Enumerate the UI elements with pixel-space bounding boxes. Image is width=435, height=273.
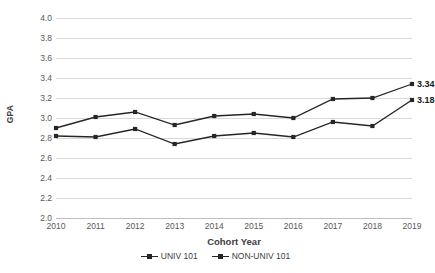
data-point-marker — [370, 124, 374, 128]
chart-legend: UNIV 101NON-UNIV 101 — [0, 252, 431, 261]
data-point-marker — [212, 114, 216, 118]
data-point-marker — [291, 116, 295, 120]
series-end-label-0: 3.34 — [417, 80, 435, 89]
data-point-marker — [410, 82, 414, 86]
series-end-label-1: 3.18 — [417, 96, 435, 105]
data-point-marker — [331, 97, 335, 101]
data-point-marker — [410, 98, 414, 102]
legend-item-label: UNIV 101 — [161, 252, 198, 261]
data-point-marker — [133, 127, 137, 131]
legend-line-marker-icon — [141, 252, 158, 261]
data-point-marker — [252, 112, 256, 116]
data-point-marker — [370, 96, 374, 100]
legend-item-0[interactable]: UNIV 101 — [141, 252, 198, 261]
series-line-0 — [56, 84, 412, 128]
data-point-marker — [291, 135, 295, 139]
data-point-marker — [331, 120, 335, 124]
legend-item-1[interactable]: NON-UNIV 101 — [212, 252, 291, 261]
data-point-marker — [252, 131, 256, 135]
legend-line-marker-icon — [212, 252, 229, 261]
data-point-marker — [93, 115, 97, 119]
data-point-marker — [212, 134, 216, 138]
data-point-marker — [54, 134, 58, 138]
data-point-marker — [54, 126, 58, 130]
data-point-marker — [93, 135, 97, 139]
data-point-marker — [173, 142, 177, 146]
data-point-marker — [173, 123, 177, 127]
data-point-marker — [133, 110, 137, 114]
series-line-1 — [56, 100, 412, 144]
legend-item-label: NON-UNIV 101 — [232, 252, 291, 261]
